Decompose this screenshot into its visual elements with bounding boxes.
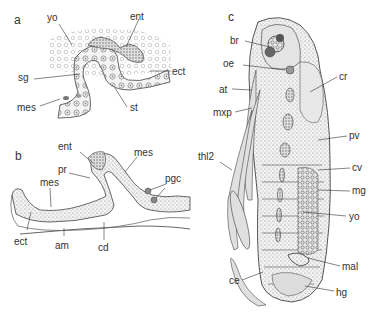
label-b-am: am	[55, 241, 69, 251]
label-a-yo: yo	[47, 13, 58, 23]
label-c-at: at	[219, 85, 227, 95]
label-b-mes-left: mes	[40, 178, 59, 188]
label-b-pgc: pgc	[165, 174, 181, 184]
label-c-mxp: mxp	[213, 108, 232, 118]
label-b-ect: ect	[14, 237, 27, 247]
figure: a b c yo ent sg ect mes st ent mes pr pg…	[0, 0, 375, 316]
label-a-mes: mes	[17, 103, 36, 113]
label-c-mal: mal	[342, 262, 358, 272]
label-c-br: br	[230, 36, 239, 46]
label-c-ce: ce	[229, 276, 240, 286]
panel-label-c: c	[228, 11, 234, 23]
label-a-ent: ent	[130, 12, 144, 22]
label-c-thl2: thl2	[198, 152, 214, 162]
label-c-cr: cr	[339, 72, 347, 82]
label-c-mg: mg	[352, 186, 366, 196]
label-c-hg: hg	[336, 288, 347, 298]
label-c-cv: cv	[352, 163, 362, 173]
diagram-drawing	[0, 0, 375, 316]
label-c-oe: oe	[223, 59, 234, 69]
label-a-sg: sg	[18, 73, 29, 83]
label-b-mes-right: mes	[134, 148, 153, 158]
panel-a-drawing	[48, 29, 172, 118]
label-b-ent: ent	[58, 142, 72, 152]
panel-label-a: a	[14, 14, 21, 26]
label-c-pv: pv	[349, 131, 360, 141]
label-c-yo: yo	[349, 212, 360, 222]
label-a-ect: ect	[172, 67, 185, 77]
label-a-st: st	[130, 103, 138, 113]
label-b-pr: pr	[58, 165, 67, 175]
panel-c-drawing	[226, 18, 330, 306]
label-b-cd: cd	[98, 243, 109, 253]
panel-b-drawing	[11, 152, 190, 234]
panel-label-b: b	[15, 150, 22, 162]
